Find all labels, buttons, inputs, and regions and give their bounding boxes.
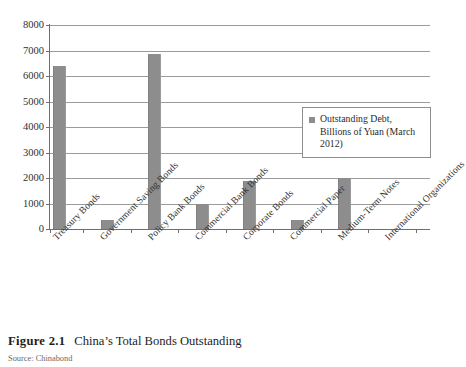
x-label-government-saving-bonds: Government Saving Bonds [98,160,180,242]
figure-chart: 010002000300040005000600070008000 Treasu… [0,0,451,330]
legend-label: Outstanding Debt, Billions of Yuan (Marc… [320,113,424,151]
x-tick-mark-5 [321,229,322,233]
figure-source: Source: Chinabond [8,354,72,363]
caption-title: China’s Total Bonds Outstanding [74,334,241,348]
x-tick-mark-3 [226,229,227,233]
chart-legend: Outstanding Debt, Billions of Yuan (Marc… [302,107,431,158]
x-tick-mark-origin [50,229,51,233]
x-tick-mark-1 [131,229,132,233]
x-tick-mark-4 [273,229,274,233]
figure-caption: Figure 2.1China’s Total Bonds Outstandin… [8,334,448,349]
x-tick-mark-0 [83,229,84,233]
x-axis-category-labels: Treasury BondsGovernment Saving BondsPol… [0,0,451,330]
x-tick-mark-7 [416,229,417,233]
caption-number: Figure 2.1 [8,334,65,348]
x-tick-mark-2 [178,229,179,233]
x-tick-mark-6 [368,229,369,233]
x-label-international-organizations: International Organizations [383,159,466,242]
legend-swatch-icon [309,117,315,123]
x-label-treasury-bonds: Treasury Bonds [51,191,102,242]
